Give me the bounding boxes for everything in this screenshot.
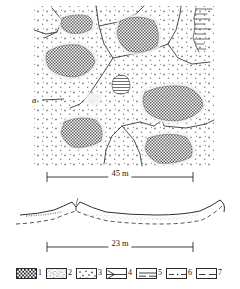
legend-swatch-dash-dot-line [166,268,187,279]
map-drawing [0,0,240,172]
legend-number-4: 4 [128,269,134,277]
polygon-patch-small-hatched [112,75,130,94]
legend: 1 2 [0,262,240,284]
scale-bar-45m: 45 m [46,170,194,184]
legend-item-5: 5 [136,268,164,279]
legend-item-7: 7 [196,268,224,279]
legend-item-6: 6 [166,268,194,279]
legend-number-6: 6 [188,269,194,277]
legend-item-2: 2 [46,268,74,279]
legend-swatch-checkerboard [16,268,37,279]
cross-section-surface-profile [20,200,225,215]
polygon-patch [58,12,95,36]
cross-section-border-leader [76,198,78,205]
panel-cross-section: border depression b [0,186,240,240]
legend-item-1: 1 [16,268,44,279]
cross-section-drawing [0,186,240,240]
legend-number-3: 3 [98,269,104,277]
figure: a 45 m [0,0,240,289]
legend-swatch-sparse-dots [76,268,97,279]
legend-number-5: 5 [158,269,164,277]
legend-swatch-solid-dashed-line [136,268,157,279]
legend-swatch-dashed-line [196,268,217,279]
scale-bar-45m-label: 45 m [108,168,131,179]
panel-label-a: a [32,96,37,105]
panel-plan-view-map: a [0,0,240,172]
legend-item-4: 4 [106,268,134,279]
legend-number-1: 1 [38,269,44,277]
legend-item-3: 3 [76,268,104,279]
legend-number-2: 2 [68,269,74,277]
legend-swatch-arrow-line [106,268,127,279]
legend-swatch-dense-stipple [46,268,67,279]
legend-number-7: 7 [218,269,224,277]
scale-bar-23m: 23 m [46,240,194,254]
scale-bar-23m-label: 23 m [108,238,131,249]
